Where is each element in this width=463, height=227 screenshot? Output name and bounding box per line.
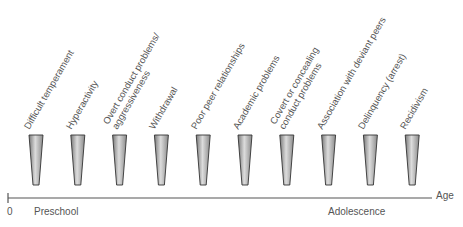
cone-marker-10 [405,135,419,185]
cone-marker-9 [363,135,377,185]
axis-origin-label: 0 [7,206,13,217]
axis-title-age: Age [436,190,454,201]
cone-marker-4 [154,135,168,185]
cone-marker-7 [280,135,294,185]
cone-marker-2 [71,135,85,185]
cone-marker-3 [113,135,127,185]
period-end-label: Adolescence [328,206,385,217]
cone-marker-1 [29,135,43,185]
cone-group [29,135,419,185]
developmental-sequence-diagram: Difficult temperamentHyperactivityOvert … [0,0,463,227]
cone-marker-5 [196,135,210,185]
cone-marker-8 [322,135,336,185]
period-start-label: Preschool [34,206,78,217]
cone-marker-6 [238,135,252,185]
